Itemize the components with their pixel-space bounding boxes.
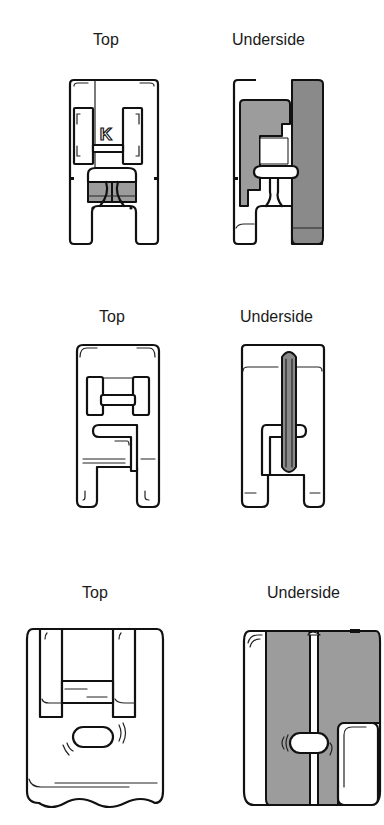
row3-underside-presser-foot [242, 627, 382, 809]
row1-top-label: Top [93, 31, 119, 49]
row2-underside-label: Underside [240, 308, 313, 326]
row3-underside-label: Underside [267, 584, 340, 602]
row1-top-presser-foot: K [66, 78, 162, 246]
row1-underside-label: Underside [232, 31, 305, 49]
row1-underside-presser-foot [230, 78, 326, 246]
row2-top-presser-foot [75, 343, 161, 509]
row3-top-presser-foot [25, 627, 165, 809]
row2-top-label: Top [99, 308, 125, 326]
row3-top-label: Top [82, 584, 108, 602]
k-marking: K [100, 125, 113, 144]
row2-underside-presser-foot [240, 343, 326, 509]
